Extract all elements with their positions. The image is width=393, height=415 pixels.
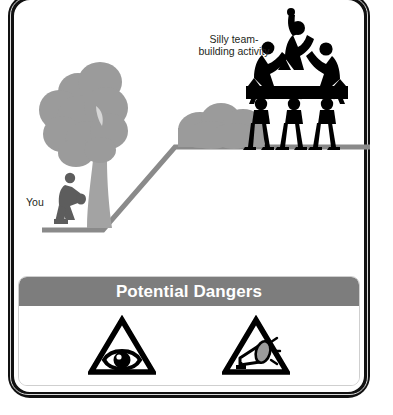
label-activity-line1: Silly team- [186,33,282,45]
page-root: Silly team- building activity You Potent… [0,0,393,415]
danger-icon-megaphone [222,315,290,377]
pyramid-bearer-right [308,92,340,150]
potential-dangers-panel: Potential Dangers [18,276,360,386]
danger-icon-eye [88,315,156,377]
label-activity-line2: building activity [186,45,282,57]
label-you: You [26,196,44,208]
potential-dangers-title: Potential Dangers [116,282,262,302]
person-sitting-under-tree [54,173,86,224]
potential-dangers-body [19,306,359,385]
pyramid-bearer-middle [275,92,307,150]
potential-dangers-header: Potential Dangers [19,277,359,306]
megaphone-warning-icon [222,315,290,377]
pyramid-kneeler-right [306,42,346,86]
eye-warning-icon [88,315,156,377]
label-silly-team-building-activity: Silly team- building activity [186,33,282,57]
